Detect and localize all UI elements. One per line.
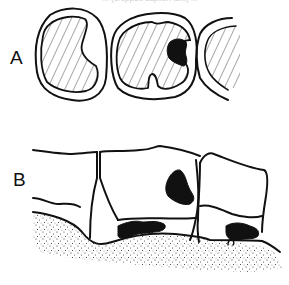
tooth-a3	[197, 18, 240, 100]
lesion-b-middle-proximal	[166, 170, 194, 205]
lesion-b-right-cervical	[226, 223, 259, 241]
tooth-a1	[36, 9, 107, 101]
gingiva-stipple	[33, 212, 282, 272]
tooth-a2	[111, 13, 197, 99]
panel-b-teeth	[33, 146, 282, 272]
dental-illustration	[0, 0, 289, 285]
panel-a-teeth	[36, 9, 240, 101]
